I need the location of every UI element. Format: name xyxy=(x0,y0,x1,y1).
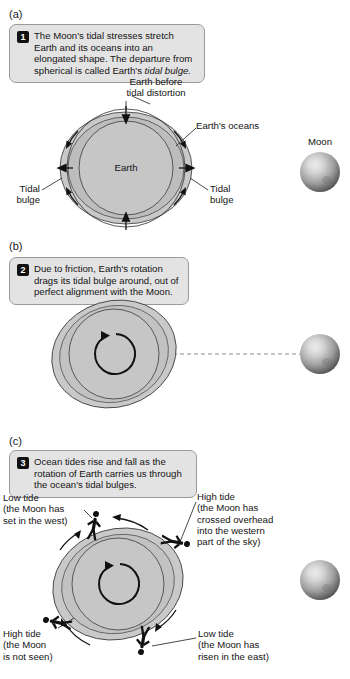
label-earth: Earth xyxy=(96,162,156,173)
label-tidal-bulge-right: Tidal bulge xyxy=(210,183,233,206)
earth-body-c xyxy=(72,538,164,630)
panel-b-figure xyxy=(0,235,350,435)
label-low-tide-east: Low tide (the Moon has risen in the east… xyxy=(198,628,269,662)
label-high-tide-not-seen: High tide (the Moon is not seen) xyxy=(3,628,53,662)
moon-sphere-a xyxy=(300,152,340,192)
moon-crater-b xyxy=(307,341,319,351)
label-high-tide-overhead: High tide (the Moon has crossed overhead… xyxy=(197,491,273,547)
label-moon-a: Moon xyxy=(290,136,350,147)
moon-mare-c xyxy=(322,584,332,592)
moon-crater-a xyxy=(307,159,319,169)
label-earths-oceans: Earth's oceans xyxy=(196,120,259,131)
moon-sphere-c xyxy=(300,560,340,600)
panel-c: (c) 3 Ocean tides rise and fall as the r… xyxy=(0,432,350,679)
moon-crater-c xyxy=(307,567,319,577)
panel-b: (b) 2 Due to friction, Earth's rotation … xyxy=(0,235,350,435)
moon-sphere-b xyxy=(300,334,340,374)
label-tidal-bulge-left: Tidal bulge xyxy=(0,183,40,206)
panel-a: (a) 1 The Moon's tidal stresses stretch … xyxy=(0,0,350,235)
label-earth-before: Earth before tidal distortion xyxy=(96,76,216,99)
moon-mare-a xyxy=(322,176,332,184)
panel-a-figure xyxy=(0,0,350,235)
moon-mare-b xyxy=(322,358,332,366)
earth-body-b xyxy=(69,309,159,399)
label-low-tide-west: Low tide (the Moon has set in the west) xyxy=(3,492,68,526)
